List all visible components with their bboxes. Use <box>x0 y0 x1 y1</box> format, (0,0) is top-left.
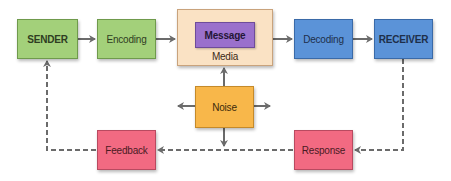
decoding-box: Decoding <box>294 19 353 59</box>
message-box: Message <box>195 22 255 48</box>
media-label: Media <box>212 51 238 62</box>
response-label: Response <box>302 145 345 156</box>
feedback-box: Feedback <box>97 130 156 170</box>
sender-label: SENDER <box>27 34 67 45</box>
dashed-receiver-response <box>355 59 403 150</box>
communication-diagram: SENDER Encoding Media Message Decoding R… <box>0 0 451 181</box>
response-box: Response <box>294 130 353 170</box>
dashed-feedback-sender <box>47 61 96 150</box>
receiver-label: RECEIVER <box>379 34 429 45</box>
sender-box: SENDER <box>17 19 78 59</box>
noise-box: Noise <box>195 86 254 128</box>
message-label: Message <box>205 30 246 41</box>
receiver-box: RECEIVER <box>374 19 433 59</box>
noise-label: Noise <box>212 102 237 113</box>
decoding-label: Decoding <box>303 34 344 45</box>
encoding-box: Encoding <box>97 19 156 59</box>
encoding-label: Encoding <box>106 34 146 45</box>
feedback-label: Feedback <box>105 145 147 156</box>
